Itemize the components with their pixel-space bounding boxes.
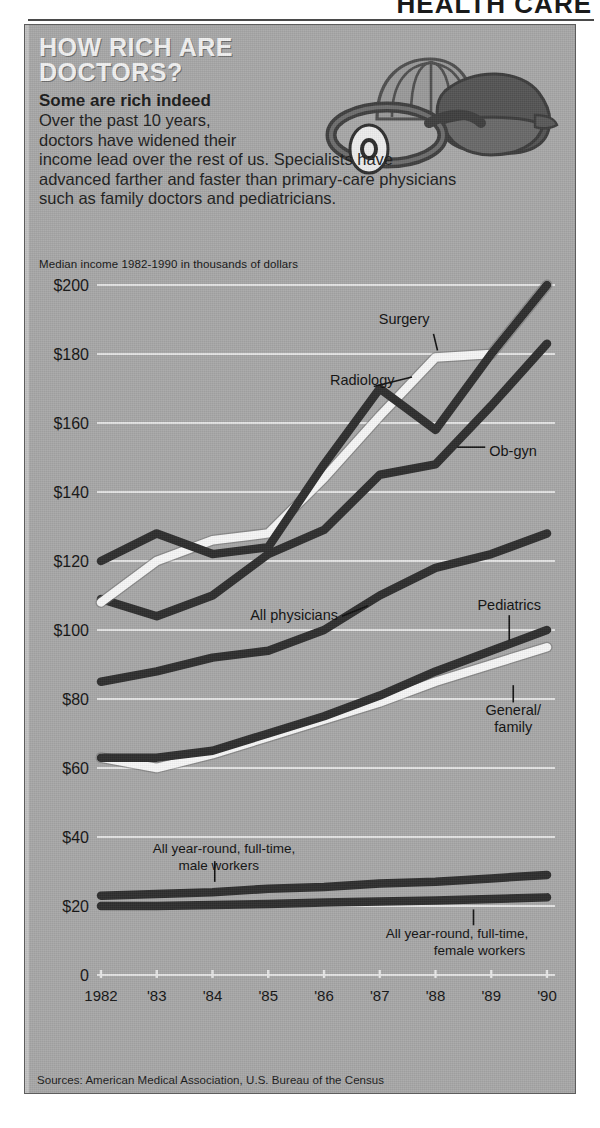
x-axis-tick-label: '87 xyxy=(370,987,390,1004)
x-axis-tick-label: '88 xyxy=(426,987,446,1004)
deck-line-5: such as family doctors and pediatricians… xyxy=(39,189,563,209)
deck-line-3: income lead over the rest of us. Special… xyxy=(39,150,563,170)
sources-line: Sources: American Medical Association, U… xyxy=(37,1074,384,1086)
page-masthead: HEALTH CARE xyxy=(0,0,600,22)
y-axis-tick-label: $100 xyxy=(53,622,89,639)
y-axis-tick-label: $80 xyxy=(62,691,89,708)
masthead-rule xyxy=(28,19,594,21)
panel-left-edge xyxy=(25,25,29,1093)
series-annotation-label: All physicians xyxy=(250,607,338,623)
series-annotation-label: Surgery xyxy=(379,311,431,327)
series-line-all-year-round-full-time-female-workers xyxy=(101,897,547,906)
annotation-leader-line xyxy=(434,334,438,351)
y-axis-tick-label: $180 xyxy=(53,346,89,363)
series-annotation-label: male workers xyxy=(179,858,260,873)
series-annotation-label: General/ xyxy=(485,702,542,718)
masthead-title: HEALTH CARE xyxy=(397,0,592,20)
series-line-pediatrics xyxy=(101,630,547,758)
y-axis-tick-label: $60 xyxy=(62,760,89,777)
x-axis-tick-label: '86 xyxy=(314,987,334,1004)
series-annotation-label: female workers xyxy=(434,943,526,958)
y-axis-tick-label: 0 xyxy=(80,967,89,984)
line-chart: 0$20$40$60$80$100$120$140$160$180$200198… xyxy=(39,275,563,1043)
series-annotation-label: Pediatrics xyxy=(477,597,541,613)
x-axis-tick-label: '83 xyxy=(147,987,167,1004)
subhead: Some are rich indeed xyxy=(39,91,379,110)
infographic-panel: HOW RICH ARE DOCTORS? Some are rich inde… xyxy=(24,24,576,1094)
x-axis-tick-label: '90 xyxy=(537,987,557,1004)
x-axis-tick-label: 1982 xyxy=(84,987,117,1004)
series-annotation-label: family xyxy=(494,719,533,735)
series-annotation-label: All year-round, full-time, xyxy=(153,841,296,856)
series-annotation-label: All year-round, full-time, xyxy=(386,926,529,941)
y-axis-tick-label: $40 xyxy=(62,829,89,846)
deck-text: Over the past 10 years, doctors have wid… xyxy=(39,111,563,209)
y-axis-tick-label: $120 xyxy=(53,553,89,570)
headline-block: HOW RICH ARE DOCTORS? xyxy=(39,35,339,85)
deck-line-2: doctors have widened their xyxy=(39,131,563,151)
series-line-all-year-round-full-time-male-workers xyxy=(101,875,547,896)
x-axis-tick-label: '89 xyxy=(481,987,501,1004)
headline-line-1: HOW RICH ARE xyxy=(39,35,339,60)
chart-note: Median income 1982-1990 in thousands of … xyxy=(39,258,298,270)
series-annotation-label: Radiology xyxy=(330,372,395,388)
y-axis-tick-label: $160 xyxy=(53,415,89,432)
deck-line-1: Over the past 10 years, xyxy=(39,111,563,131)
x-axis-tick-label: '84 xyxy=(203,987,223,1004)
x-axis-tick-label: '85 xyxy=(258,987,278,1004)
y-axis-tick-label: $20 xyxy=(62,898,89,915)
headline-line-2: DOCTORS? xyxy=(39,60,339,85)
y-axis-tick-label: $200 xyxy=(53,277,89,294)
deck-line-4: advanced farther and faster than primary… xyxy=(39,170,563,190)
y-axis-tick-label: $140 xyxy=(53,484,89,501)
series-annotation-label: Ob-gyn xyxy=(489,443,537,459)
